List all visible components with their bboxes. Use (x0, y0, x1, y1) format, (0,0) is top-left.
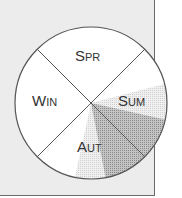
season-wheel: SPR SUM AUT WIN (0, 0, 182, 198)
shaded-wedge-dark (91, 103, 180, 198)
